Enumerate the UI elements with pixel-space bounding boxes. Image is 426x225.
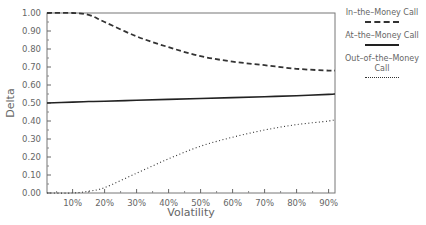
series-line-2 (47, 119, 335, 193)
y-tick-label: 0.80 (22, 44, 41, 54)
y-tick-label: 0.60 (22, 80, 41, 90)
x-tick-label: 90% (319, 198, 338, 208)
x-tick-label: 10% (63, 198, 82, 208)
series-line-0 (47, 13, 335, 71)
y-tick-label: 0.70 (22, 62, 41, 72)
y-tick-label: 0.30 (22, 134, 41, 144)
legend-item-atm: At–the–Money Call (338, 31, 426, 46)
x-tick-label: 80% (287, 198, 306, 208)
y-tick-label: 1.00 (22, 8, 41, 18)
solid-line-swatch-icon (365, 44, 399, 46)
legend-label-itm: In–the–Money Call (338, 8, 426, 18)
legend-item-otm: Out–of–the–Money Call (338, 54, 426, 78)
series-line-1 (47, 94, 335, 103)
y-tick-label: 0.00 (22, 188, 41, 198)
dashed-line-swatch-icon (365, 21, 399, 23)
y-tick-label: 0.40 (22, 116, 41, 126)
legend-item-itm: In–the–Money Call (338, 8, 426, 23)
x-tick-label: 70% (255, 198, 274, 208)
x-tick-label: 60% (223, 198, 242, 208)
dotted-line-swatch-icon (365, 77, 399, 78)
legend-label-atm: At–the–Money Call (338, 31, 426, 41)
y-axis-label: Delta (4, 88, 17, 117)
x-tick-label: 20% (95, 198, 114, 208)
x-axis-label: Volatility (167, 206, 215, 219)
y-tick-label: 0.50 (22, 98, 41, 108)
legend: In–the–Money Call At–the–Money Call Out–… (338, 8, 426, 83)
y-tick-label: 0.90 (22, 26, 41, 36)
y-tick-label: 0.10 (22, 170, 41, 180)
y-tick-label: 0.20 (22, 152, 41, 162)
legend-label-otm: Out–of–the–Money Call (338, 54, 426, 74)
plot-frame (47, 13, 335, 193)
x-tick-label: 30% (127, 198, 146, 208)
